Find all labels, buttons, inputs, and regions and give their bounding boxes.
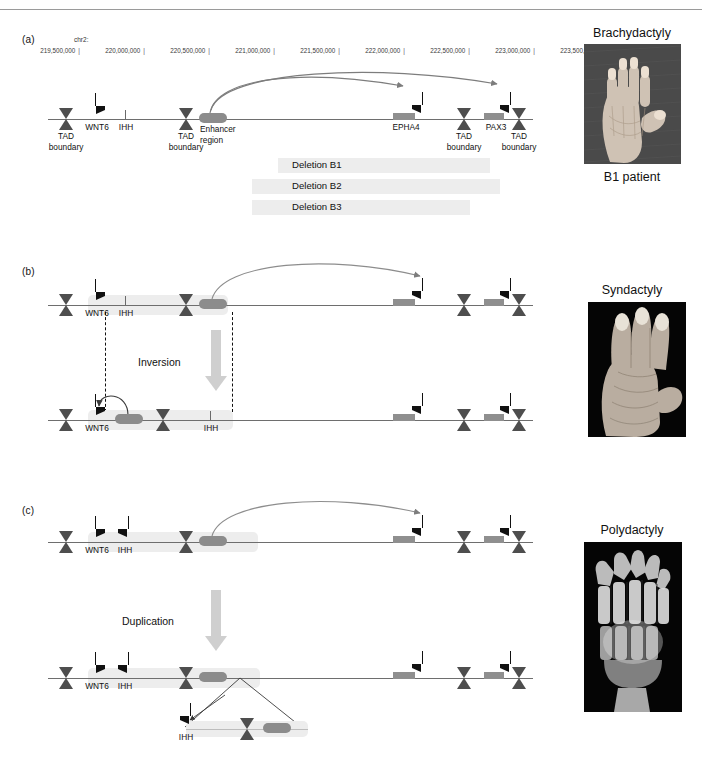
ihh-gene-tick-icon [125,110,126,119]
header-rule [0,9,702,10]
duplication-label: Duplication [122,615,174,627]
ihh-gene-tick-icon [125,296,126,305]
pax3-gene-bar [484,536,504,543]
gene-label-ihh: IHH [204,423,218,433]
gene-label-epha4: EPHA4 [392,122,419,132]
pax3-gene-bar [484,414,504,421]
gene-label-wnt6: WNT6 [85,681,109,691]
gene-label-ihh: IHH [118,681,132,691]
photo-title-brachydactyly: Brachydactyly [593,26,671,40]
enhancer-region-icon [263,723,291,733]
enhancer-region-icon [115,414,143,424]
pax3-gene-bar [484,113,504,120]
ihh-gene-tick-icon [210,411,211,420]
tad-boundary-label: TADboundary [49,131,84,152]
ruler-tick: 223,000,000| [495,47,535,54]
deletion-label-b3: Deletion B3 [292,201,342,212]
epha4-gene-bar [393,536,415,543]
inversion-guide-left [105,312,106,412]
panel-label-c: (c) [22,505,34,516]
ruler-tick: 220,500,000| [170,47,210,54]
coordinate-ruler: chr2: 219,500,000| 220,000,000| 220,500,… [18,36,538,62]
inversion-guide-right [232,312,233,412]
ruler-tick: 222,500,000| [430,47,470,54]
epha4-gene-bar [393,672,415,679]
enhancer-region-icon [199,113,227,123]
epha4-gene-bar [393,414,415,421]
photo-title-polydactyly: Polydactyly [600,523,663,537]
epha4-gene-bar [393,299,415,306]
pax3-gene-bar [484,299,504,306]
enhancer-region-icon [199,672,227,682]
gene-label-ihh: IHH [119,122,133,132]
figure-root: (a) chr2: 219,500,000| 220,000,000| 220,… [0,0,702,757]
gene-label-wnt6: WNT6 [85,122,109,132]
ruler-tick: 221,500,000| [300,47,340,54]
ruler-tick: 220,000,000| [105,47,145,54]
ruler-ticks: 219,500,000| 220,000,000| 220,500,000| 2… [18,47,538,61]
duplication-arrow-icon [205,590,227,652]
gene-label-wnt6: WNT6 [85,423,109,433]
enhancer-region-label: Enhancerregion [200,124,236,145]
tad-boundary-label: TADboundary [447,131,482,152]
ruler-tick: 222,000,000| [365,47,405,54]
inversion-arrow-icon [205,330,227,392]
chromosome-label: chr2: [74,36,88,43]
deletion-bar-b1: Deletion B1 [278,158,490,173]
deletion-bar-b3: Deletion B3 [252,200,470,215]
pax3-gene-bar [484,672,504,679]
gene-label-ihh-duplicated: IHH [179,732,193,742]
photo-hand-syndactyly [588,302,686,437]
tad-boundary-label: TADboundary [169,131,204,152]
deletion-bar-b2: Deletion B2 [252,179,500,194]
photo-hand-brachydactyly [584,44,681,164]
ruler-tick: 221,000,000| [235,47,275,54]
deletion-label-b1: Deletion B1 [292,159,342,170]
photo-title-syndactyly: Syndactyly [602,283,662,297]
gene-label-ihh: IHH [119,308,133,318]
deletion-label-b2: Deletion B2 [292,180,342,191]
photo-caption-b1-patient: B1 patient [604,170,660,184]
enhancer-region-icon [199,536,227,546]
enhancer-region-icon [199,299,227,309]
gene-label-wnt6: WNT6 [85,545,109,555]
panel-label-b: (b) [22,266,35,277]
epha4-gene-bar [393,113,415,120]
photo-xray-polydactyly [584,542,682,712]
ruler-tick: 219,500,000| [40,47,80,54]
tad-boundary-label: TADboundary [502,131,537,152]
inversion-label: Inversion [138,356,181,368]
gene-label-ihh: IHH [118,545,132,555]
